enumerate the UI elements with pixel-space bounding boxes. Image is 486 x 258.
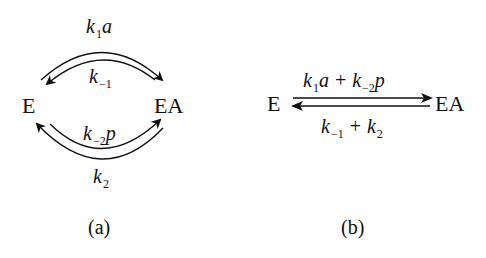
rate-subscript: −2 <box>93 134 106 148</box>
node-E: E <box>22 95 35 117</box>
rate-symbol: k <box>86 15 95 37</box>
rate-k-2p-label: k−2p <box>83 123 116 143</box>
rate-subscript: −1 <box>331 127 344 141</box>
node-E: E <box>267 93 280 115</box>
rate-subscript: 2 <box>377 127 383 141</box>
rate-suffix: p <box>375 69 385 91</box>
panel-b-combined-scheme: E EA k1a+k−2p k−1+k2 (b) <box>243 0 486 258</box>
rate-subscript: 2 <box>103 177 109 191</box>
rate-subscript: −2 <box>362 81 375 95</box>
reverse-rate-label: k−1+k2 <box>321 116 383 136</box>
rate-subscript: −1 <box>99 77 112 91</box>
rate-symbol: k <box>93 165 102 187</box>
rate-suffix: p <box>106 122 116 144</box>
plus-operator: + <box>350 115 361 137</box>
rate-symbol: k <box>89 65 98 87</box>
rate-symbol: k <box>367 115 376 137</box>
rate-symbol: k <box>352 69 361 91</box>
rate-suffix: a <box>319 69 329 91</box>
rate-suffix: a <box>102 15 112 37</box>
caption-a: (a) <box>88 217 110 237</box>
rate-symbol: k <box>83 122 92 144</box>
panel-a-arrows <box>0 0 243 258</box>
rate-symbol: k <box>303 69 312 91</box>
node-EA: EA <box>435 93 464 115</box>
caption-b: (b) <box>341 217 364 237</box>
node-EA: EA <box>154 95 183 117</box>
rate-subscript: 1 <box>96 27 102 41</box>
forward-rate-label: k1a+k−2p <box>303 70 385 90</box>
rate-k1a-label: k1a <box>86 16 112 36</box>
rate-k-1-label: k−1 <box>89 66 112 86</box>
panel-a-cyclic-scheme: k1a k−1 E EA k−2p k2 (a) <box>0 0 243 258</box>
rate-symbol: k <box>321 115 330 137</box>
rate-subscript: 1 <box>313 81 319 95</box>
rate-k2-label: k2 <box>93 166 109 186</box>
plus-operator: + <box>335 69 346 91</box>
